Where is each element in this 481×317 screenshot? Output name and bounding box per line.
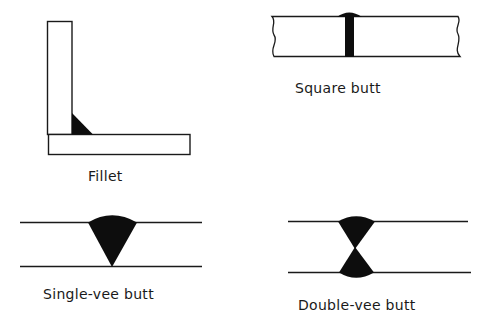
fillet-joint: Fillet bbox=[48, 22, 191, 185]
double-vee-weld-top bbox=[338, 216, 375, 249]
square-butt-label: Square butt bbox=[295, 80, 381, 96]
single-vee-butt-label: Single-vee butt bbox=[43, 286, 154, 302]
fillet-label: Fillet bbox=[88, 168, 123, 184]
double-vee-butt-label: Double-vee butt bbox=[298, 297, 416, 313]
weld-joints-diagram: Fillet Square butt Single-vee butt Doubl… bbox=[0, 0, 481, 317]
single-vee-weld bbox=[88, 215, 137, 267]
double-vee-weld-bottom bbox=[339, 247, 374, 278]
vertical-plate bbox=[48, 22, 73, 135]
plate-outline bbox=[272, 17, 460, 57]
horizontal-plate bbox=[49, 135, 191, 155]
square-weld-cap bbox=[337, 13, 362, 18]
fillet-weld bbox=[72, 113, 93, 135]
square-weld-bar bbox=[345, 15, 354, 57]
double-vee-butt-joint: Double-vee butt bbox=[288, 216, 471, 313]
single-vee-butt-joint: Single-vee butt bbox=[20, 215, 202, 302]
square-butt-joint: Square butt bbox=[272, 13, 460, 97]
